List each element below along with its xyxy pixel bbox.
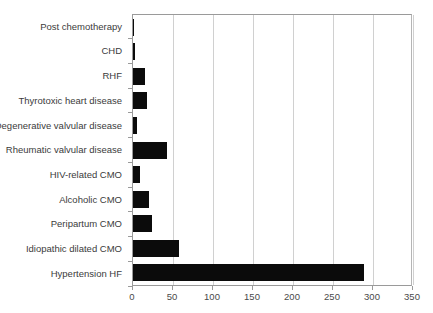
y-axis-tick-label: RHF — [102, 71, 122, 81]
bar-row — [133, 187, 411, 212]
x-axis-tick — [292, 286, 293, 290]
y-axis-label-cell: Alcoholic CMO — [0, 187, 127, 212]
x-axis-tick — [412, 286, 413, 290]
y-axis-tick-label: Degenerative valvular disease — [0, 121, 122, 131]
x-axis-tick — [372, 286, 373, 290]
x-axis-tick-label: 100 — [204, 292, 220, 302]
y-axis-tick-label: Alcoholic CMO — [59, 195, 122, 205]
y-axis-tick-label: Rheumatic valvular disease — [6, 145, 122, 155]
bar-thyrotoxic-heart-disease — [133, 92, 147, 109]
bar-row — [133, 64, 411, 89]
bar-row — [133, 15, 411, 40]
y-axis-labels: Post chemotherapy CHD RHF Thyrotoxic hea… — [0, 14, 127, 286]
y-axis-tick-label: HIV-related CMO — [50, 170, 122, 180]
x-axis: 050100150200250300350 — [132, 286, 412, 312]
y-axis-label-cell: RHF — [0, 63, 127, 88]
x-axis-tick — [212, 286, 213, 290]
x-axis-tick-label: 50 — [167, 292, 178, 302]
y-axis-label-cell: Degenerative valvular disease — [0, 113, 127, 138]
bar-rheumatic-valvular-disease — [133, 142, 167, 159]
bar-row — [133, 211, 411, 236]
y-axis-tick-label: CHD — [101, 46, 122, 56]
gridline — [413, 15, 414, 285]
bar-row — [133, 113, 411, 138]
bar-row — [133, 138, 411, 163]
bar-rhf — [133, 68, 145, 85]
y-axis-tick-label: Peripartum CMO — [51, 219, 122, 229]
bar-row — [133, 40, 411, 65]
bar-idiopathic-dilated-cmo — [133, 240, 179, 257]
bar-chart: Post chemotherapy CHD RHF Thyrotoxic hea… — [0, 0, 433, 313]
y-axis-label-cell: Rheumatic valvular disease — [0, 138, 127, 163]
x-axis-tick-label: 300 — [364, 292, 380, 302]
y-axis-label-cell: Hypertension HF — [0, 261, 127, 286]
x-axis-tick — [332, 286, 333, 290]
y-axis-label-cell: Post chemotherapy — [0, 14, 127, 39]
y-axis-tick-label: Idiopathic dilated CMO — [26, 244, 122, 254]
x-axis-tick — [172, 286, 173, 290]
bar-rows — [133, 15, 411, 285]
x-axis-tick — [132, 286, 133, 290]
y-axis-label-cell: HIV-related CMO — [0, 162, 127, 187]
x-axis-tick-label: 250 — [324, 292, 340, 302]
bar-row — [133, 89, 411, 114]
bar-row — [133, 260, 411, 285]
bar-peripartum-cmo — [133, 215, 152, 232]
y-axis-label-cell: Peripartum CMO — [0, 212, 127, 237]
x-axis-tick-label: 150 — [244, 292, 260, 302]
bar-chd — [133, 43, 135, 60]
x-axis-tick-label: 350 — [404, 292, 420, 302]
y-axis-label-cell: Idiopathic dilated CMO — [0, 237, 127, 262]
y-axis-tick-label: Thyrotoxic heart disease — [19, 96, 123, 106]
bar-degenerative-valvular-disease — [133, 117, 137, 134]
bar-hypertension-hf — [133, 264, 364, 281]
bar-alcoholic-cmo — [133, 191, 149, 208]
x-axis-tick-label: 0 — [129, 292, 134, 302]
y-axis-label-cell: CHD — [0, 39, 127, 64]
y-axis-label-cell: Thyrotoxic heart disease — [0, 88, 127, 113]
y-axis-tick-label: Post chemotherapy — [40, 22, 122, 32]
plot-area — [132, 14, 412, 286]
bar-post-chemotherapy — [133, 19, 134, 36]
x-axis-tick-label: 200 — [284, 292, 300, 302]
bar-hiv-related-cmo — [133, 166, 140, 183]
y-axis-tick-label: Hypertension HF — [51, 269, 122, 279]
bar-row — [133, 162, 411, 187]
bar-row — [133, 236, 411, 261]
x-axis-tick — [252, 286, 253, 290]
